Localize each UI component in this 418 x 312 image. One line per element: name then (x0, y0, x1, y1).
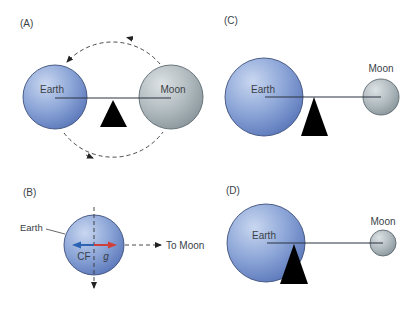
moon-circle (139, 65, 203, 129)
moon-label: Moon (160, 84, 185, 95)
orbit-arrow-bottom (86, 155, 93, 158)
moon-label: Moon (370, 216, 395, 227)
fulcrum-triangle (301, 97, 328, 136)
fulcrum-triangle (100, 100, 127, 127)
to-moon-label: To Moon (166, 240, 204, 251)
g-label: g (103, 251, 109, 262)
panel-a: (A) Earth Moon (20, 18, 203, 158)
panel-d-label: (D) (226, 185, 240, 196)
panel-b: (B) Earth To Moon CF g (20, 187, 204, 288)
orbit-arc-bottom (64, 132, 163, 157)
moon-label: Moon (368, 63, 393, 74)
earth-label: Earth (40, 84, 64, 95)
panel-c: (C) Earth Moon (224, 15, 399, 136)
earth-moon-diagram: (A) Earth Moon (B) Earth To Moon CF g (C… (0, 0, 418, 312)
earth-circle (23, 65, 87, 129)
orbit-arc-top (67, 42, 160, 64)
earth-label: Earth (252, 230, 276, 241)
earth-leader-line (46, 229, 65, 234)
panel-a-label: (A) (20, 18, 33, 29)
panel-d: (D) Earth Moon (226, 185, 396, 284)
earth-label: Earth (251, 84, 275, 95)
panel-b-label: (B) (23, 187, 36, 198)
orbit-arrow-top (127, 38, 133, 40)
cf-label: CF (77, 251, 90, 262)
earth-label: Earth (20, 222, 43, 233)
panel-c-label: (C) (224, 15, 238, 26)
